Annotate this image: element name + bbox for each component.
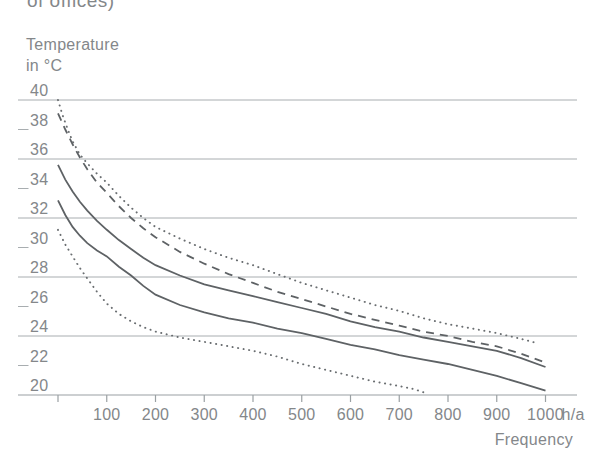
x-tick-label-800: 800 <box>434 406 462 423</box>
x-tick-label-200: 200 <box>142 406 170 423</box>
x-axis-label: Frequency <box>495 431 573 449</box>
y-tick-label-20: 20 <box>30 377 48 394</box>
y-tick-label-38: 38 <box>30 112 48 129</box>
x-tick-label-300: 300 <box>190 406 218 423</box>
y-tick-label-32: 32 <box>30 200 48 217</box>
x-tick-label-400: 400 <box>239 406 267 423</box>
y-tick-label-22: 22 <box>30 348 48 365</box>
y-tick-label-28: 28 <box>30 259 48 276</box>
x-axis-unit: h/a <box>562 406 585 423</box>
x-tick-label-1000: 1000 <box>527 406 564 423</box>
series-upper-dashed <box>58 113 546 362</box>
series-upper-solid <box>58 165 546 367</box>
y-tick-label-30: 30 <box>30 230 48 247</box>
y-tick-label-40: 40 <box>30 82 48 99</box>
y-tick-label-26: 26 <box>30 289 48 306</box>
y-tick-label-34: 34 <box>30 171 48 188</box>
x-tick-label-100: 100 <box>93 406 121 423</box>
temperature-frequency-plot: 4038363432302826242220100200300400500600… <box>0 0 610 471</box>
x-tick-label-600: 600 <box>337 406 365 423</box>
y-tick-label-36: 36 <box>30 141 48 158</box>
y-tick-label-24: 24 <box>30 318 48 335</box>
chart-canvas: of offices) Temperature in °C 4038363432… <box>0 0 610 471</box>
x-tick-label-900: 900 <box>483 406 511 423</box>
x-tick-label-500: 500 <box>288 406 316 423</box>
series-min-envelope-dotted <box>58 230 427 394</box>
series-lower-solid <box>58 200 546 390</box>
x-tick-label-700: 700 <box>385 406 413 423</box>
